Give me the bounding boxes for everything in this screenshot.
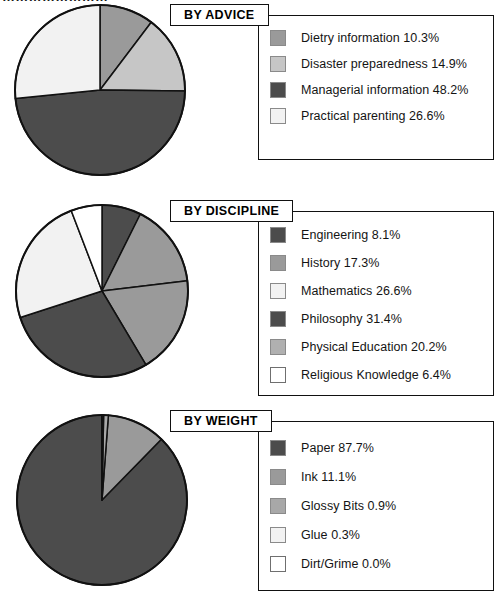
legend-swatch-icon xyxy=(270,339,286,355)
legend-swatch-icon xyxy=(270,367,286,383)
legend-swatch-icon xyxy=(270,469,286,485)
section-title-tab-discipline: BY DISCIPLINE xyxy=(170,200,293,222)
legend-panel-advice: Dietry information 10.3%Disaster prepare… xyxy=(258,15,494,160)
legend-swatch-icon xyxy=(270,311,286,327)
legend-label: Glue 0.3% xyxy=(301,528,360,542)
pie-chart-advice-svg xyxy=(12,2,212,187)
legend-swatch-icon xyxy=(270,283,286,299)
section-title-tab-weight: BY WEIGHT xyxy=(170,410,272,432)
legend-label: Dirt/Grime 0.0% xyxy=(301,557,391,571)
legend-panel-weight: Paper 87.7%Ink 11.1%Glossy Bits 0.9%Glue… xyxy=(258,421,494,591)
legend-item: Philosophy 31.4% xyxy=(259,305,493,333)
pie-slice xyxy=(15,90,185,175)
legend-panel-discipline: Engineering 8.1%History 17.3%Mathematics… xyxy=(258,211,494,396)
legend-item: Managerial information 48.2% xyxy=(259,77,493,103)
legend-swatch-icon xyxy=(270,56,286,72)
legend-list-advice: Dietry information 10.3%Disaster prepare… xyxy=(259,16,493,129)
legend-item: Ink 11.1% xyxy=(259,462,493,491)
pie-chart-discipline xyxy=(12,198,212,388)
legend-label: Mathematics 26.6% xyxy=(301,284,412,298)
legend-label: Engineering 8.1% xyxy=(301,228,400,242)
legend-label: Physical Education 20.2% xyxy=(301,340,447,354)
section-title-discipline: BY DISCIPLINE xyxy=(184,204,279,218)
legend-swatch-icon xyxy=(270,227,286,243)
pie-chart-advice xyxy=(12,2,212,187)
legend-swatch-icon xyxy=(270,527,286,543)
legend-item: Religious Knowledge 6.4% xyxy=(259,361,493,389)
legend-label: Dietry information 10.3% xyxy=(301,31,439,45)
legend-label: Disaster preparedness 14.9% xyxy=(301,57,467,71)
legend-item: Mathematics 26.6% xyxy=(259,277,493,305)
legend-item: Paper 87.7% xyxy=(259,433,493,462)
legend-item: History 17.3% xyxy=(259,249,493,277)
section-title-advice: BY ADVICE xyxy=(184,8,255,22)
legend-swatch-icon xyxy=(270,498,286,514)
legend-item: Glue 0.3% xyxy=(259,520,493,549)
legend-list-discipline: Engineering 8.1%History 17.3%Mathematics… xyxy=(259,212,493,389)
legend-swatch-icon xyxy=(270,440,286,456)
legend-swatch-icon xyxy=(270,255,286,271)
legend-item: Engineering 8.1% xyxy=(259,221,493,249)
legend-label: Practical parenting 26.6% xyxy=(301,109,445,123)
legend-label: Managerial information 48.2% xyxy=(301,83,468,97)
pie-chart-weight xyxy=(12,408,212,596)
legend-swatch-icon xyxy=(270,556,286,572)
pie-slice xyxy=(15,5,100,99)
pie-chart-weight-svg xyxy=(12,408,212,596)
legend-item: Glossy Bits 0.9% xyxy=(259,491,493,520)
legend-label: Ink 11.1% xyxy=(301,470,356,484)
section-title-tab-advice: BY ADVICE xyxy=(170,4,269,26)
legend-label: Paper 87.7% xyxy=(301,441,374,455)
legend-label: Religious Knowledge 6.4% xyxy=(301,368,451,382)
legend-swatch-icon xyxy=(270,108,286,124)
legend-swatch-icon xyxy=(270,82,286,98)
legend-item: Physical Education 20.2% xyxy=(259,333,493,361)
pie-chart-discipline-svg xyxy=(12,198,212,388)
legend-item: Dietry information 10.3% xyxy=(259,25,493,51)
legend-label: Glossy Bits 0.9% xyxy=(301,499,396,513)
legend-label: History 17.3% xyxy=(301,256,379,270)
section-title-weight: BY WEIGHT xyxy=(184,414,258,428)
figure-page: …………………… BY ADVICE Dietry information 10… xyxy=(0,0,499,596)
legend-label: Philosophy 31.4% xyxy=(301,312,402,326)
legend-list-weight: Paper 87.7%Ink 11.1%Glossy Bits 0.9%Glue… xyxy=(259,422,493,578)
legend-item: Disaster preparedness 14.9% xyxy=(259,51,493,77)
legend-item: Dirt/Grime 0.0% xyxy=(259,549,493,578)
legend-swatch-icon xyxy=(270,30,286,46)
legend-item: Practical parenting 26.6% xyxy=(259,103,493,129)
